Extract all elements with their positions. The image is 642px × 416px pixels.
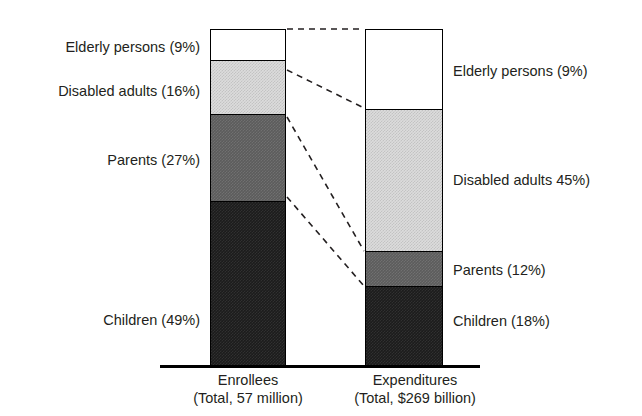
baseline-axis	[160, 365, 480, 368]
bar-enrollees-segment-disabled	[211, 60, 285, 114]
axis-label-expenditures-line1: Expenditures	[373, 372, 458, 388]
axis-label-enrollees-line1: Enrollees	[218, 372, 278, 388]
bar-expenditures-segment-elderly	[366, 30, 442, 109]
bar-expenditures-segment-disabled	[366, 109, 442, 251]
left-label-children: Children (49%)	[10, 312, 200, 329]
bar-expenditures-segment-children	[366, 286, 442, 366]
bar-enrollees-segment-children	[211, 201, 285, 366]
right-label-disabled: Disabled adults 45%)	[453, 172, 638, 189]
bar-expenditures-segment-parents	[366, 251, 442, 286]
bar-expenditures	[365, 29, 443, 367]
left-label-parents: Parents (27%)	[10, 152, 200, 169]
connector-line-parents	[287, 197, 364, 286]
axis-label-expenditures: Expenditures (Total, $269 billion)	[320, 371, 510, 407]
bar-enrollees-segment-elderly	[211, 30, 285, 60]
connector-line-elderly	[287, 70, 364, 108]
connector-line-disabled	[287, 117, 364, 251]
stacked-bar-chart: Elderly persons (9%) Disabled adults (16…	[0, 0, 642, 416]
right-label-parents: Parents (12%)	[453, 262, 638, 279]
right-label-elderly: Elderly persons (9%)	[453, 63, 638, 80]
axis-label-enrollees-line2: (Total, 57 million)	[163, 389, 333, 407]
axis-label-enrollees: Enrollees (Total, 57 million)	[163, 371, 333, 407]
bar-enrollees	[210, 29, 286, 367]
left-label-disabled: Disabled adults (16%)	[10, 83, 200, 100]
bar-enrollees-segment-parents	[211, 114, 285, 201]
left-label-elderly: Elderly persons (9%)	[10, 39, 200, 56]
axis-label-expenditures-line2: (Total, $269 billion)	[320, 389, 510, 407]
right-label-children: Children (18%)	[453, 313, 638, 330]
